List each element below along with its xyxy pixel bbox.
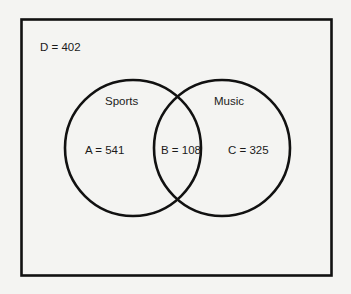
sports-set-label: Sports [105,96,138,108]
region-b-label: B = 108 [161,145,201,157]
region-c-label: C = 325 [228,145,269,157]
universe-label: D = 402 [40,42,81,54]
music-set-label: Music [214,96,244,108]
region-a-label: A = 541 [85,145,124,157]
